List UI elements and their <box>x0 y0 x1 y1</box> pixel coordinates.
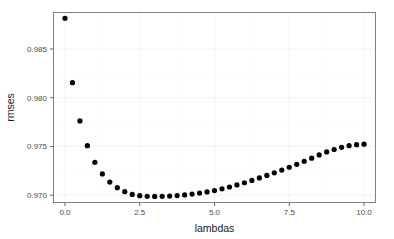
data-point <box>204 189 209 194</box>
data-point <box>227 184 232 189</box>
data-point <box>264 173 269 178</box>
data-point <box>77 118 82 123</box>
data-point <box>354 142 359 147</box>
data-point <box>85 143 90 148</box>
data-point <box>317 152 322 157</box>
data-point <box>219 186 224 191</box>
data-point <box>287 165 292 170</box>
data-point <box>212 188 217 193</box>
data-point <box>197 190 202 195</box>
y-tick-label: 0.970 <box>27 191 48 200</box>
y-tick-label: 0.985 <box>27 45 48 54</box>
data-point <box>100 171 105 176</box>
x-tick-label: 2.5 <box>134 208 146 217</box>
x-tick-label: 5.0 <box>209 208 221 217</box>
data-point <box>249 178 254 183</box>
data-point <box>92 160 97 165</box>
x-tick-label: 7.5 <box>284 208 296 217</box>
y-axis-title: rmses <box>4 93 16 122</box>
scatter-plot-svg: 0.02.55.07.510.0 0.9700.9750.9800.985 la… <box>0 0 394 239</box>
data-point <box>234 182 239 187</box>
data-point <box>62 16 67 21</box>
data-point <box>302 159 307 164</box>
data-point <box>70 80 75 85</box>
data-point <box>130 192 135 197</box>
data-point <box>242 180 247 185</box>
data-point <box>145 194 150 199</box>
x-tick-label: 0.0 <box>59 208 71 217</box>
data-point <box>346 143 351 148</box>
data-point <box>294 162 299 167</box>
chart-figure: 0.02.55.07.510.0 0.9700.9750.9800.985 la… <box>0 0 394 239</box>
y-tick-label: 0.975 <box>27 142 48 151</box>
data-point <box>122 189 127 194</box>
data-point <box>339 145 344 150</box>
data-point <box>182 192 187 197</box>
data-point <box>160 194 165 199</box>
data-point <box>332 147 337 152</box>
data-point <box>309 156 314 161</box>
data-point <box>137 193 142 198</box>
x-axis-title: lambdas <box>195 222 235 234</box>
data-point <box>107 179 112 184</box>
data-point <box>175 193 180 198</box>
data-point <box>167 193 172 198</box>
y-tick-label: 0.980 <box>27 94 48 103</box>
data-point <box>272 170 277 175</box>
data-point <box>257 175 262 180</box>
data-point <box>361 142 366 147</box>
data-point <box>115 185 120 190</box>
x-tick-label: 10.0 <box>356 208 372 217</box>
data-point <box>279 167 284 172</box>
data-point <box>324 149 329 154</box>
data-point <box>189 191 194 196</box>
data-point <box>152 194 157 199</box>
